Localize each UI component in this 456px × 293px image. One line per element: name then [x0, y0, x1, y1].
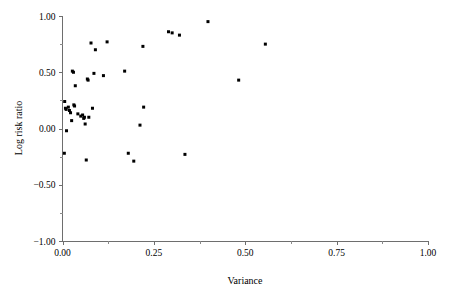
data-point: [84, 123, 87, 126]
data-point: [87, 79, 90, 82]
x-tick-label: 0.25: [146, 248, 163, 258]
y-axis-title: Log risk ratio: [13, 101, 24, 155]
y-tick-label: 0.50: [39, 68, 56, 78]
data-point: [167, 30, 170, 33]
plot-canvas: −1.00−0.500.000.501.00 0.000.250.500.751…: [0, 0, 456, 293]
data-point: [74, 84, 77, 87]
data-point: [132, 160, 135, 163]
data-point: [138, 124, 141, 127]
data-point: [65, 129, 68, 132]
y-tick-label: 0.00: [39, 124, 56, 134]
y-tick-label: 1.00: [39, 12, 56, 22]
data-point: [171, 31, 174, 34]
data-point: [183, 153, 186, 156]
data-point: [87, 116, 90, 119]
data-point: [85, 159, 88, 162]
data-point: [72, 71, 75, 74]
y-tick-label: −1.00: [34, 237, 56, 247]
x-tick-label: 1.00: [420, 248, 437, 258]
data-point: [69, 111, 72, 114]
y-tick-label: −0.50: [34, 180, 56, 190]
x-tick-label: 0.75: [328, 248, 345, 258]
data-point: [67, 106, 70, 109]
data-point: [63, 100, 66, 103]
x-tick-label: 0.50: [237, 248, 254, 258]
data-point: [123, 70, 126, 73]
data-point: [73, 105, 76, 108]
data-point: [76, 112, 79, 115]
data-point: [142, 106, 145, 109]
data-point: [237, 79, 240, 82]
data-point: [70, 119, 73, 122]
data-point: [127, 152, 130, 155]
scatter-plot-figure: −1.00−0.500.000.501.00 0.000.250.500.751…: [0, 0, 456, 293]
data-point: [178, 34, 181, 37]
data-point: [206, 20, 209, 23]
data-point: [63, 152, 66, 155]
data-point: [264, 43, 267, 46]
data-point: [83, 116, 86, 119]
x-axis-ticks: 0.000.250.500.751.00: [54, 241, 436, 258]
y-axis-ticks: −1.00−0.500.000.501.00: [34, 12, 63, 247]
data-point: [91, 107, 94, 110]
axes-group: [63, 16, 429, 242]
x-axis-title: Variance: [228, 275, 264, 286]
data-point: [94, 48, 97, 51]
data-point: [92, 72, 95, 75]
data-point: [102, 74, 105, 77]
data-point: [90, 42, 93, 45]
x-tick-label: 0.00: [54, 248, 71, 258]
data-points-group: [63, 20, 267, 163]
data-point: [106, 40, 109, 43]
data-point: [141, 45, 144, 48]
